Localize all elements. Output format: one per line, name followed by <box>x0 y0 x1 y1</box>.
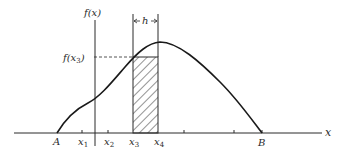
y-axis: f(x) <box>83 7 101 146</box>
tick-label-x1: x1 <box>78 136 88 149</box>
tick-label-x2: x2 <box>104 136 114 149</box>
point-B-label: B <box>257 137 265 148</box>
function-curve <box>57 42 262 133</box>
h-dimension-arrow: h <box>134 15 157 26</box>
x-axis: x <box>14 126 332 139</box>
y-axis-label: f(x) <box>83 7 101 18</box>
function-area-diagram: x f(x) h f(x3) A B x1 x2 x3 x4 <box>0 0 353 156</box>
fx3-label-close: ) <box>80 52 85 63</box>
hatched-rectangle <box>133 57 158 133</box>
fx3-label: f(x3) <box>62 52 85 65</box>
tick-label-x4: x4 <box>154 136 165 149</box>
fx3-label-base: f(x <box>62 52 77 63</box>
h-label: h <box>142 15 148 26</box>
point-A-label: A <box>52 136 60 147</box>
tick-label-x3: x3 <box>129 136 139 149</box>
x-axis-label: x <box>325 126 332 139</box>
